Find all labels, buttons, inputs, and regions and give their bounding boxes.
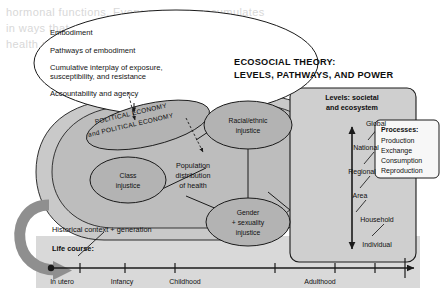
node-gender-label-3: injustice [236, 229, 261, 238]
process-exchange: Exchange [381, 146, 412, 156]
process-production: Production [381, 136, 414, 146]
level-national: National [353, 144, 379, 153]
process-reproduction: Reproduction [381, 166, 423, 176]
ecosocial-theory-figure: hormonal functions. Every exposure accum… [0, 0, 442, 295]
node-gender-label-2: + sexuality [232, 219, 264, 228]
level-household: Household [360, 216, 393, 225]
population-label-1: Population [176, 161, 210, 171]
life-stage-in-utero: In utero [50, 278, 74, 287]
embodiment-item-3: susceptibility, and resistance [50, 72, 146, 82]
embodiment-item-4: Accountability and agency [50, 89, 138, 99]
level-regional: Regional [348, 168, 376, 177]
population-label-2: distribution [176, 171, 211, 181]
node-class-label-1: Class [120, 172, 137, 181]
historical-context-label: Historical context + generation [52, 225, 152, 234]
life-stage-childhood: Childhood [169, 278, 201, 287]
population-label-3: of health [179, 181, 207, 191]
levels-heading-line-1: Levels: societal [325, 93, 379, 102]
level-area: Area [353, 192, 368, 201]
level-individual: Individual [362, 241, 392, 250]
life-stage-adulthood: Adulthood [304, 278, 336, 287]
process-consumption: Consumption [381, 156, 422, 166]
life-course-origin-dot [48, 265, 54, 271]
node-racial-label-2: injustice [236, 127, 261, 136]
figure-title-line-2: LEVELS, PATHWAYS, AND POWER [234, 70, 393, 82]
node-racial-label-1: Racial/ethnic [229, 117, 268, 126]
processes-heading: Processes: [381, 125, 418, 135]
node-class-label-2: injustice [116, 182, 141, 191]
life-stage-infancy: Infancy [111, 278, 134, 287]
life-course-label: Life course: [52, 244, 94, 253]
embodiment-item-1: Pathways of embodiment [50, 46, 135, 56]
figure-title-line-1: ECOSOCIAL THEORY: [234, 57, 336, 69]
node-gender-label-1: Gender [237, 209, 260, 218]
levels-heading-line-2: and ecosystem [326, 103, 378, 112]
embodiment-item-0: Embodiment [50, 28, 93, 38]
